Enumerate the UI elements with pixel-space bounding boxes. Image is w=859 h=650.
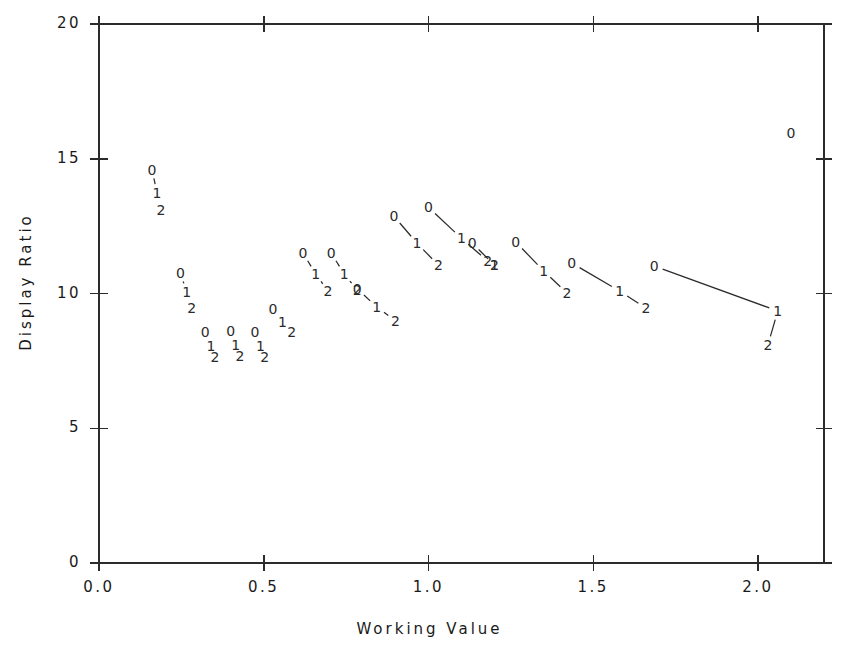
data-point-label: 0: [269, 301, 278, 317]
series-group: 012: [226, 323, 244, 364]
data-point-label: 1: [311, 266, 320, 282]
series-group: 012: [353, 281, 400, 329]
axes: [99, 24, 824, 563]
series-segment: [770, 320, 775, 337]
data-point-label: 1: [539, 263, 548, 279]
data-point-label: 0: [389, 208, 398, 224]
series-segment: [364, 295, 370, 301]
y-tick-label: 15: [0, 149, 81, 167]
data-point-label: 0: [567, 255, 576, 271]
series-segment: [435, 213, 455, 232]
data-point-label: 2: [260, 349, 269, 365]
data-point-label: 1: [153, 185, 162, 201]
data-point-label: 2: [562, 285, 571, 301]
y-tick-label: 20: [0, 14, 81, 32]
data-point-label: 2: [490, 257, 499, 273]
data-point-label: 0: [327, 245, 336, 261]
series-segment: [154, 178, 155, 184]
y-axis-title: Display Ratio: [17, 152, 35, 412]
series-segment: [384, 312, 388, 315]
outlier-point-label: 0: [786, 125, 795, 141]
data-series: 0120120120120120120120120120120120120120…: [148, 125, 796, 365]
data-point-label: 1: [615, 283, 624, 299]
data-point-label: 2: [434, 257, 443, 273]
data-point-label: 0: [176, 265, 185, 281]
series-segment: [627, 296, 638, 303]
data-point-label: 0: [650, 258, 659, 274]
data-point-label: 1: [278, 314, 287, 330]
series-segment: [400, 223, 411, 236]
data-point-label: 2: [156, 202, 165, 218]
data-point-label: 2: [324, 283, 333, 299]
x-tick-label: 1.5: [533, 578, 653, 596]
data-point-label: 1: [413, 235, 422, 251]
data-point-label: 1: [372, 299, 381, 315]
data-point-label: 2: [391, 313, 400, 329]
data-point-label: 2: [763, 337, 772, 353]
y-tick-label: 5: [0, 418, 81, 436]
x-axis-title: Working Value: [0, 620, 859, 638]
data-point-label: 1: [457, 230, 466, 246]
data-point-label: 2: [211, 349, 220, 365]
series-segment: [663, 269, 770, 308]
x-tick-label: 0.5: [204, 578, 324, 596]
data-point-label: 2: [187, 300, 196, 316]
plot-area: 0120120120120120120120120120120120120120…: [0, 0, 859, 650]
series-segment: [522, 249, 538, 265]
x-tick-label: 2.0: [698, 578, 818, 596]
series-group: 012: [511, 234, 571, 301]
data-point-label: 0: [353, 281, 362, 297]
series-group: 012: [389, 208, 442, 273]
series-segment: [550, 277, 560, 286]
data-point-label: 2: [236, 348, 245, 364]
series-segment: [423, 250, 432, 259]
series-group: 012: [269, 301, 297, 340]
series-group: 012: [250, 324, 269, 365]
series-segment: [350, 281, 352, 283]
x-tick-label: 1.0: [369, 578, 489, 596]
data-point-label: 2: [287, 324, 296, 340]
series-group: 012: [148, 162, 166, 219]
data-point-label: 2: [642, 300, 651, 316]
data-point-label: 0: [468, 235, 477, 251]
data-point-label: 1: [182, 284, 191, 300]
series-group: 012: [650, 258, 782, 353]
series-segment: [580, 268, 612, 287]
plot-frame: [99, 24, 824, 563]
chart-container: 0120120120120120120120120120120120120120…: [0, 0, 859, 650]
data-point-label: 0: [511, 234, 520, 250]
y-tick-label: 0: [0, 553, 81, 571]
data-point-label: 0: [424, 199, 433, 215]
x-tick-label: 0.0: [39, 578, 159, 596]
series-segment: [321, 281, 323, 283]
series-group: 012: [567, 255, 650, 316]
data-point-label: 0: [148, 162, 157, 178]
series-group: 012: [201, 324, 220, 365]
data-point-label: 1: [340, 266, 349, 282]
axis-ticks: [90, 16, 832, 571]
series-group: 012: [176, 265, 196, 316]
y-tick-label: 10: [0, 284, 81, 302]
data-point-label: 0: [298, 245, 307, 261]
data-point-label: 1: [773, 303, 782, 319]
